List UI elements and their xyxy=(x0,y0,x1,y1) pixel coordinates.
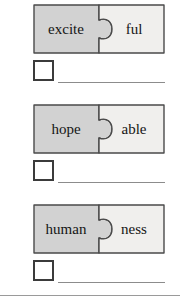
answer-write-line[interactable] xyxy=(58,282,165,283)
page-footer-rule xyxy=(0,295,180,296)
answer-area xyxy=(33,60,165,90)
answer-write-line[interactable] xyxy=(58,82,165,83)
exercise-row: hope able xyxy=(0,104,180,190)
answer-checkbox[interactable] xyxy=(33,160,54,181)
answer-area xyxy=(33,260,165,290)
exercise-row: human ness xyxy=(0,204,180,290)
answer-checkbox[interactable] xyxy=(33,260,54,281)
puzzle-suffix: able xyxy=(103,104,165,154)
answer-area xyxy=(33,160,165,190)
puzzle-suffix: ful xyxy=(103,4,165,54)
exercise-row: excite ful xyxy=(0,4,180,90)
puzzle-root-word: hope xyxy=(33,104,99,154)
jigsaw-puzzle: excite ful xyxy=(33,4,165,54)
jigsaw-puzzle: human ness xyxy=(33,204,165,254)
puzzle-suffix: ness xyxy=(103,204,165,254)
puzzle-root-word: excite xyxy=(33,4,99,54)
jigsaw-puzzle: hope able xyxy=(33,104,165,154)
worksheet: excite ful hope able hum xyxy=(0,0,180,303)
puzzle-root-word: human xyxy=(33,204,99,254)
answer-write-line[interactable] xyxy=(58,182,165,183)
answer-checkbox[interactable] xyxy=(33,60,54,81)
